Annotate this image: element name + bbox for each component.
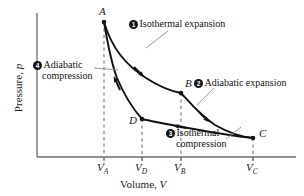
step-4-label-line2: compression: [42, 70, 93, 81]
step-3-isothermal-compression: 3Isothermal compression: [166, 127, 227, 149]
leader-step-2: [197, 88, 214, 105]
point-marker-B: [179, 91, 184, 96]
y-axis-title-text: Pressure,: [12, 69, 24, 112]
step-3-label-line1: Isothermal: [177, 127, 220, 138]
xtick-VB-symbol: V: [174, 161, 181, 173]
step-3-line1: 3Isothermal: [166, 127, 227, 138]
xtick-label-VB: VB: [174, 161, 185, 173]
xtick-VA-symbol: V: [97, 161, 104, 173]
step-4-line1: 4Adiabatic: [33, 59, 93, 70]
x-axis-title: Volume, V: [120, 178, 166, 190]
point-marker-C: [251, 136, 256, 141]
point-label-B: B: [185, 77, 192, 89]
xtick-label-VA: VA: [97, 161, 108, 173]
xtick-VD-symbol: V: [135, 161, 142, 173]
step-1-number: 1: [129, 20, 138, 29]
point-label-D: D: [129, 114, 137, 126]
point-label-A: A: [99, 5, 106, 17]
x-axis-title-text: Volume,: [120, 178, 160, 190]
xtick-VC-sub: C: [253, 167, 258, 176]
step-2-number: 2: [194, 79, 203, 88]
step-4-label-line1: Adiabatic: [44, 59, 83, 70]
y-axis-title-symbol: p: [12, 64, 24, 70]
xtick-VB-sub: B: [181, 167, 186, 176]
pv-diagram-canvas: [0, 0, 304, 196]
pv-diagram-figure: A B C D 1Isothermal expansion 2Adiabatic…: [0, 0, 304, 196]
step-3-number: 3: [166, 129, 175, 138]
y-axis-title: Pressure, p: [12, 46, 24, 130]
xtick-VA-sub: A: [104, 167, 109, 176]
xtick-label-VD: VD: [135, 161, 147, 173]
xtick-VC-symbol: V: [246, 161, 253, 173]
step-1-isothermal-expansion: 1Isothermal expansion: [129, 18, 225, 29]
step-4-number: 4: [33, 61, 42, 70]
point-marker-D: [140, 117, 145, 122]
step-2-label: Adiabatic expansion: [205, 77, 287, 88]
x-axis-title-symbol: V: [160, 178, 167, 190]
step-1-label: Isothermal expansion: [140, 18, 226, 29]
xtick-VD-sub: D: [142, 167, 147, 176]
xtick-label-VC: VC: [246, 161, 258, 173]
point-label-C: C: [259, 127, 266, 139]
step-4-adiabatic-compression: 4Adiabatic compression: [33, 59, 93, 81]
leader-step-1: [146, 31, 168, 48]
step-3-label-line2: compression: [176, 138, 227, 149]
point-marker-A: [102, 20, 107, 25]
step-2-adiabatic-expansion: 2Adiabatic expansion: [194, 77, 286, 88]
arrow-adiabatic-expansion: [199, 112, 207, 120]
